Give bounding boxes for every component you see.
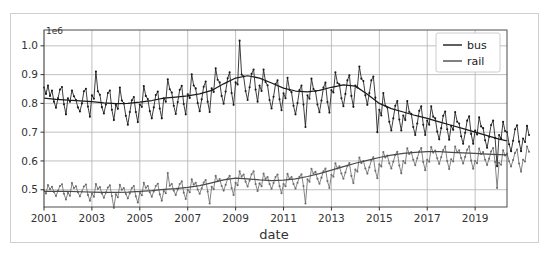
data-point-rail <box>193 184 195 186</box>
data-point-rail <box>115 193 117 195</box>
data-point-rail <box>512 159 514 161</box>
data-point-rail <box>107 186 109 188</box>
data-point-bus <box>133 96 135 98</box>
data-point-rail <box>137 201 139 203</box>
data-point-bus <box>374 97 376 99</box>
data-point-rail <box>522 159 524 161</box>
data-point-bus <box>322 87 324 89</box>
data-point-rail <box>165 192 167 194</box>
y-tick-label: 0.6 <box>21 155 38 167</box>
data-point-rail <box>79 195 81 197</box>
data-point-bus <box>312 88 314 90</box>
data-point-rail <box>446 160 448 162</box>
data-point-bus <box>442 115 444 117</box>
data-point-rail <box>388 162 390 164</box>
data-point-rail <box>486 164 488 166</box>
data-point-bus <box>418 110 420 112</box>
data-point-bus <box>111 109 113 111</box>
data-point-rail <box>215 175 217 177</box>
data-point-rail <box>167 172 169 174</box>
data-point-bus <box>310 78 312 80</box>
data-point-rail <box>350 175 352 177</box>
data-point-bus <box>187 93 189 95</box>
data-point-bus <box>324 82 326 84</box>
data-point-bus <box>394 105 396 107</box>
data-point-rail <box>267 176 269 178</box>
data-point-bus <box>259 85 261 87</box>
data-point-rail <box>237 184 239 186</box>
data-point-rail <box>428 161 430 163</box>
data-point-bus <box>296 102 298 104</box>
data-point-bus <box>253 68 255 70</box>
data-point-rail <box>366 173 368 175</box>
data-point-rail <box>135 195 137 197</box>
data-point-rail <box>372 156 374 158</box>
data-point-bus <box>95 70 97 72</box>
data-point-bus <box>151 117 153 119</box>
data-point-rail <box>378 163 380 165</box>
data-point-rail <box>65 198 67 200</box>
data-point-rail <box>396 151 398 153</box>
data-point-bus <box>446 128 448 130</box>
data-point-rail <box>344 171 346 173</box>
data-point-bus <box>117 108 119 110</box>
data-point-bus <box>201 98 203 100</box>
data-point-rail <box>131 187 133 189</box>
data-point-rail <box>278 185 280 187</box>
data-point-rail <box>185 198 187 200</box>
data-point-bus <box>93 98 95 100</box>
data-point-bus <box>472 143 474 145</box>
data-point-bus <box>53 101 55 103</box>
data-point-rail <box>520 171 522 173</box>
data-point-rail <box>151 196 153 198</box>
data-point-rail <box>249 179 251 181</box>
data-point-bus <box>263 68 265 70</box>
data-point-rail <box>302 185 304 187</box>
data-point-bus <box>276 79 278 81</box>
y-tick-label: 0.8 <box>21 97 38 109</box>
data-point-bus <box>235 81 237 83</box>
data-point-bus <box>145 95 147 97</box>
data-point-bus <box>340 97 342 99</box>
data-point-bus <box>520 150 522 152</box>
data-point-rail <box>225 184 227 186</box>
data-point-bus <box>332 91 334 93</box>
data-point-rail <box>294 188 296 190</box>
data-point-bus <box>179 89 181 91</box>
data-point-bus <box>185 113 187 115</box>
data-point-bus <box>334 71 336 73</box>
data-point-bus <box>241 74 243 76</box>
data-point-rail <box>438 163 440 165</box>
data-point-bus <box>81 102 83 104</box>
data-point-rail <box>233 194 235 196</box>
data-point-rail <box>368 166 370 168</box>
data-point-rail <box>97 188 99 190</box>
data-point-rail <box>211 186 213 188</box>
data-point-rail <box>265 178 267 180</box>
data-point-bus <box>368 92 370 94</box>
data-point-bus <box>294 113 296 115</box>
data-point-bus <box>113 119 115 121</box>
y-tick-label: 0.7 <box>21 126 38 138</box>
data-point-bus <box>480 125 482 127</box>
data-point-rail <box>127 197 129 199</box>
data-point-rail <box>187 189 189 191</box>
data-point-rail <box>404 162 406 164</box>
data-point-bus <box>306 94 308 96</box>
data-point-rail <box>49 188 51 190</box>
data-point-bus <box>496 165 498 167</box>
data-point-rail <box>358 156 360 158</box>
chart-legend[interactable]: busrail <box>436 33 500 72</box>
data-point-rail <box>259 182 261 184</box>
data-point-rail <box>426 159 428 161</box>
data-point-bus <box>101 106 103 108</box>
data-point-rail <box>328 187 330 189</box>
data-point-bus <box>522 137 524 139</box>
data-point-rail <box>99 186 101 188</box>
data-point-bus <box>456 121 458 123</box>
data-point-rail <box>398 165 400 167</box>
x-tick-label: 2003 <box>79 212 106 224</box>
data-point-rail <box>380 165 382 167</box>
data-point-bus <box>233 104 235 106</box>
data-point-rail <box>340 173 342 175</box>
